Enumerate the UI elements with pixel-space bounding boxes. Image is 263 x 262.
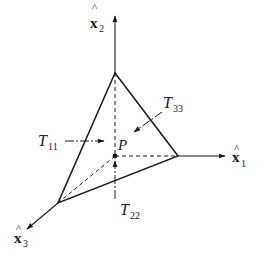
diagram-svg: ^ x 2 ^ x 1 ^ x 3 P T 11 T 33 T 22 xyxy=(0,0,263,262)
x2-hat: ^ xyxy=(92,1,98,13)
hidden-edge-x3 xyxy=(58,156,115,203)
x1-base: x xyxy=(232,149,240,165)
t22-base: T xyxy=(120,201,130,218)
x2-axis-label: ^ x 2 xyxy=(90,1,104,34)
t33-subscript: 33 xyxy=(173,103,183,114)
tetrahedron-diagram: ^ x 2 ^ x 1 ^ x 3 P T 11 T 33 T 22 xyxy=(0,0,263,262)
t22-subscript: 22 xyxy=(130,210,140,221)
x3-axis-line xyxy=(27,203,58,229)
t11-label: T 11 xyxy=(38,132,58,152)
t11-subscript: 11 xyxy=(48,141,58,152)
x2-base: x xyxy=(90,15,98,31)
x3-base: x xyxy=(14,230,22,246)
x3-subscript: 3 xyxy=(23,238,28,249)
x3-axis-label: ^ x 3 xyxy=(14,222,28,249)
x1-subscript: 1 xyxy=(241,158,246,169)
t22-label: T 22 xyxy=(120,201,140,221)
point-p-dot xyxy=(113,154,118,159)
t11-base: T xyxy=(38,132,48,149)
t33-base: T xyxy=(163,94,173,111)
x1-axis-label: ^ x 1 xyxy=(232,142,246,169)
t33-label: T 33 xyxy=(163,94,183,114)
point-p-label: P xyxy=(117,137,127,153)
x2-subscript: 2 xyxy=(99,23,104,34)
